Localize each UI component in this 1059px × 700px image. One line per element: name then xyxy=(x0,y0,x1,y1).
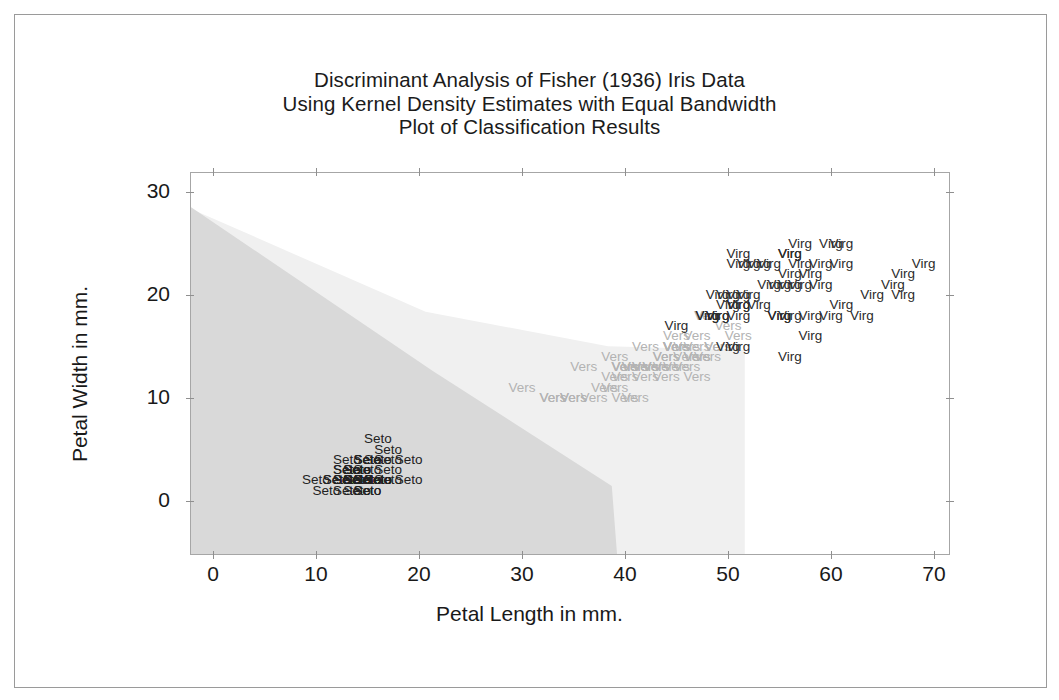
y-axis-tick xyxy=(946,192,954,193)
data-point-label: Virg xyxy=(799,329,823,343)
y-axis-tick xyxy=(186,295,194,296)
data-point-label: Virg xyxy=(757,278,781,292)
x-axis-tick xyxy=(934,168,935,176)
y-axis-tick-label: 30 xyxy=(0,179,170,203)
data-point-label: Virg xyxy=(768,309,792,323)
x-axis-tick xyxy=(934,551,935,559)
x-axis-tick xyxy=(831,551,832,559)
data-point-label: Virg xyxy=(726,340,750,354)
x-axis-tick-label: 30 xyxy=(510,562,533,586)
x-axis-tick xyxy=(213,168,214,176)
data-point-label: Vers xyxy=(539,391,566,405)
data-point-label: Virg xyxy=(829,237,853,251)
data-point-label: Virg xyxy=(726,309,750,323)
data-point-label: Virg xyxy=(860,288,884,302)
x-axis-tick xyxy=(625,551,626,559)
data-point-label: Virg xyxy=(778,350,802,364)
x-axis-tick-label: 10 xyxy=(304,562,327,586)
plot-area: SetoSetoSetoSetoSetoSetoSetoSetoSetoSeto… xyxy=(190,172,950,555)
data-point-label: Vers xyxy=(581,391,608,405)
y-axis-tick-label: 0 xyxy=(0,488,170,512)
x-axis-tick-label: 70 xyxy=(922,562,945,586)
x-axis-tick-label: 0 xyxy=(207,562,219,586)
y-axis-tick xyxy=(186,501,194,502)
x-axis-tick xyxy=(419,168,420,176)
data-point-label: Vers xyxy=(684,371,711,385)
data-point-label: Seto xyxy=(364,432,392,446)
x-axis-tick xyxy=(625,168,626,176)
data-point-label: Seto xyxy=(395,453,423,467)
x-axis-tick-label: 50 xyxy=(716,562,739,586)
y-axis-tick xyxy=(186,192,194,193)
y-axis-tick xyxy=(946,295,954,296)
y-axis-tick xyxy=(946,398,954,399)
data-point-label: Seto xyxy=(395,474,423,488)
data-point-label: Virg xyxy=(757,257,781,271)
data-point-label: Virg xyxy=(829,257,853,271)
x-axis-tick-label: 40 xyxy=(613,562,636,586)
data-point-label: Vers xyxy=(622,360,649,374)
data-point-label: Virg xyxy=(891,288,915,302)
x-axis-tick-label: 20 xyxy=(407,562,430,586)
x-axis-tick xyxy=(522,551,523,559)
screenshot-canvas: Discriminant Analysis of Fisher (1936) I… xyxy=(0,0,1059,700)
data-point-label: Vers xyxy=(673,350,700,364)
data-point-label: Virg xyxy=(778,268,802,282)
x-axis-tick-label: 60 xyxy=(819,562,842,586)
x-axis-tick xyxy=(316,551,317,559)
x-axis-tick xyxy=(316,168,317,176)
chart-title-line-2: Using Kernel Density Estimates with Equa… xyxy=(0,92,1059,116)
data-point-label: Virg xyxy=(829,299,853,313)
data-point-label: Vers xyxy=(570,360,597,374)
y-axis-tick xyxy=(946,501,954,502)
data-point-label: Virg xyxy=(850,309,874,323)
x-axis-tick xyxy=(728,551,729,559)
chart-title: Discriminant Analysis of Fisher (1936) I… xyxy=(0,68,1059,139)
data-point-label: Virg xyxy=(665,319,689,333)
data-point-label: Virg xyxy=(788,237,812,251)
x-axis-tick xyxy=(522,168,523,176)
data-point-label: Virg xyxy=(912,257,936,271)
chart-title-line-1: Discriminant Analysis of Fisher (1936) I… xyxy=(0,68,1059,92)
chart-title-line-3: Plot of Classification Results xyxy=(0,115,1059,139)
y-axis-tick xyxy=(186,398,194,399)
x-axis-tick xyxy=(419,551,420,559)
data-point-label: Virg xyxy=(737,288,761,302)
x-axis-tick xyxy=(213,551,214,559)
x-axis-title: Petal Length in mm. xyxy=(0,602,1059,626)
x-axis-tick xyxy=(831,168,832,176)
data-point-label: Vers xyxy=(508,381,535,395)
y-axis-title: Petal Width in mm. xyxy=(68,286,92,462)
data-point-label: Virg xyxy=(809,257,833,271)
data-point-label: Seto xyxy=(343,474,371,488)
x-axis-tick xyxy=(728,168,729,176)
